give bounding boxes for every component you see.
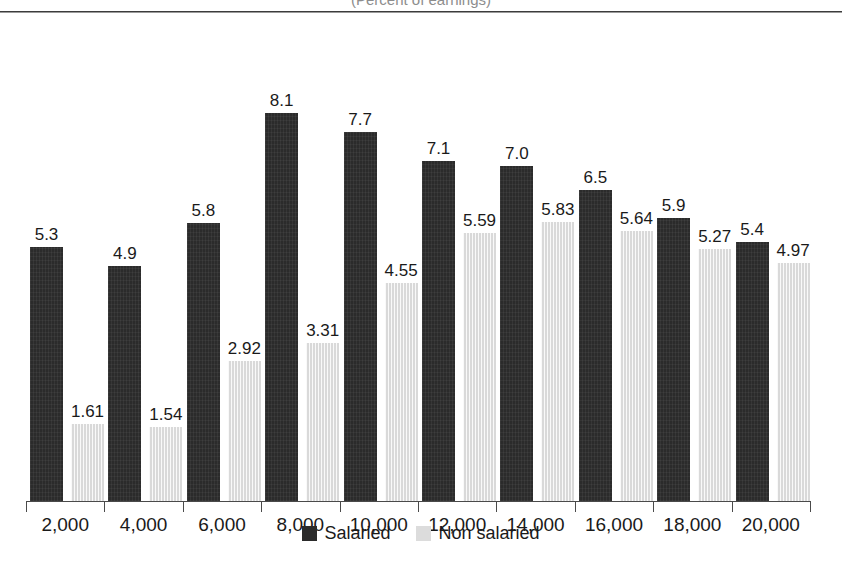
bar-group: 7.15.59	[418, 22, 496, 501]
bar-value-label: 5.59	[463, 212, 496, 229]
bar-group: 8.13.31	[261, 22, 339, 501]
legend-label-non-salaried: Non salaried	[438, 523, 539, 544]
x-axis-tick	[418, 501, 419, 512]
bar-group: 5.82.92	[183, 22, 261, 501]
bar-rect	[777, 263, 810, 501]
legend-item-non-salaried: Non salaried	[416, 523, 539, 544]
bar-value-label: 4.97	[777, 242, 810, 259]
bar-rect	[149, 427, 182, 501]
x-axis-tick	[732, 501, 733, 512]
bar-value-label: 5.9	[662, 197, 686, 214]
bar-value-label: 7.1	[427, 140, 451, 157]
bar-value-label: 5.64	[620, 210, 653, 227]
bar-dark: 7.1	[422, 135, 455, 501]
bar-dark: 5.8	[187, 197, 220, 501]
bar-rect	[385, 283, 418, 501]
bar-value-label: 5.8	[191, 202, 215, 219]
bar-dark: 7.7	[344, 106, 377, 501]
bar-value-label: 7.0	[505, 145, 529, 162]
bar-light: 4.55	[385, 257, 418, 501]
x-axis-end-cap	[26, 501, 27, 512]
x-axis-tick	[340, 501, 341, 512]
bar-value-label: 5.27	[698, 228, 731, 245]
chart-title-clipped: (Percent of earnings)	[0, 0, 842, 9]
bar-light: 1.54	[149, 401, 182, 501]
bar-dark: 5.4	[736, 216, 769, 501]
bar-value-label: 7.7	[348, 111, 372, 128]
bar-rect	[579, 190, 612, 501]
bar-light: 5.83	[541, 196, 574, 501]
bar-light: 5.59	[463, 207, 496, 501]
x-axis-end-cap	[810, 501, 811, 512]
bar-value-label: 4.55	[385, 262, 418, 279]
bar-group: 6.55.64	[575, 22, 653, 501]
bar-group: 4.91.54	[104, 22, 182, 501]
bar-dark: 4.9	[108, 240, 141, 501]
bar-value-label: 8.1	[270, 92, 294, 109]
top-divider-rule	[0, 11, 842, 13]
bar-group: 5.95.27	[653, 22, 731, 501]
bar-rect	[306, 343, 339, 502]
bar-rect	[541, 222, 574, 501]
bar-rect	[698, 249, 731, 501]
bar-value-label: 3.31	[306, 322, 339, 339]
bar-value-label: 4.9	[113, 245, 137, 262]
bar-group: 7.74.55	[340, 22, 418, 501]
bar-light: 3.31	[306, 317, 339, 502]
bar-group: 5.44.97	[732, 22, 810, 501]
bar-dark: 6.5	[579, 164, 612, 501]
bar-rect	[71, 424, 104, 501]
bar-light: 2.92	[228, 335, 261, 501]
bar-rect	[344, 132, 377, 501]
bar-rect	[265, 113, 298, 501]
bar-light: 1.61	[71, 398, 104, 501]
x-axis-tick	[575, 501, 576, 512]
bar-value-label: 1.61	[71, 403, 104, 420]
legend-swatch-salaried-icon	[302, 526, 317, 541]
x-axis-tick	[653, 501, 654, 512]
bar-rect	[620, 231, 653, 501]
x-axis-tick	[261, 501, 262, 512]
bar-light: 4.97	[777, 237, 810, 501]
bar-dark: 7.0	[500, 140, 533, 501]
bar-dark: 5.9	[657, 192, 690, 501]
bar-dark: 5.3	[30, 221, 63, 501]
bar-group: 5.31.61	[26, 22, 104, 501]
x-axis-tick	[496, 501, 497, 512]
x-axis-tick	[104, 501, 105, 512]
legend-swatch-non-salaried-icon	[416, 526, 431, 541]
bar-rect	[736, 242, 769, 501]
legend-label-salaried: Salaried	[324, 523, 390, 544]
bar-value-label: 5.83	[541, 201, 574, 218]
chart-legend: Salaried Non salaried	[0, 523, 842, 544]
bar-value-label: 6.5	[583, 169, 607, 186]
bar-rect	[500, 166, 533, 501]
bar-rect	[228, 361, 261, 501]
bar-value-label: 2.92	[228, 340, 261, 357]
bar-rect	[657, 218, 690, 501]
legend-item-salaried: Salaried	[302, 523, 390, 544]
bar-value-label: 5.4	[740, 221, 764, 238]
bar-light: 5.64	[620, 205, 653, 501]
bar-light: 5.27	[698, 223, 731, 501]
x-axis-tick	[183, 501, 184, 512]
bar-dark: 8.1	[265, 87, 298, 501]
bar-chart-figure: (Percent of earnings) 5.31.614.91.545.82…	[0, 0, 842, 568]
bar-rect	[187, 223, 220, 501]
bar-value-label: 1.54	[149, 406, 182, 423]
plot-area: 5.31.614.91.545.82.928.13.317.74.557.15.…	[0, 22, 842, 480]
bar-rect	[108, 266, 141, 501]
bar-rect	[463, 233, 496, 501]
bar-groups: 5.31.614.91.545.82.928.13.317.74.557.15.…	[26, 22, 810, 501]
bar-rect	[30, 247, 63, 501]
bar-rect	[422, 161, 455, 501]
bar-value-label: 5.3	[35, 226, 59, 243]
bar-group: 7.05.83	[496, 22, 574, 501]
